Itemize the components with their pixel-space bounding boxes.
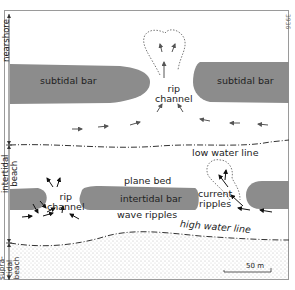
intertidal-bar-label: intertidal bar [120,194,182,204]
intertidal-bar-right [246,181,289,209]
beach-diagram [0,0,295,290]
scale-bar-label: 50 m [246,262,264,270]
subtidal-bar-right-label: subtidal bar [217,76,274,86]
low-water-line-label: low water line [192,148,258,158]
subtidal-bar-left-label: subtidal bar [40,76,97,86]
figure-number: 3936 [285,14,292,29]
current-ripples-label: current ripples [198,189,232,208]
zone-intertidal-label: intertidal beach [1,155,18,193]
plane-bed-label: plane bed [124,176,171,186]
supratidal-sand [10,232,289,280]
zone-supratidal-label: supra- tidal beach [0,256,21,280]
wave-ripples-label: wave ripples [117,210,177,220]
rip-channel-bottom-label: rip channel [47,192,85,211]
zone-nearshore-label: nearshore [2,19,11,62]
rip-channel-top-label: rip channel [155,84,193,103]
